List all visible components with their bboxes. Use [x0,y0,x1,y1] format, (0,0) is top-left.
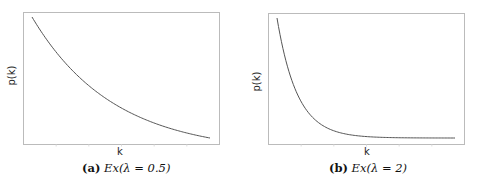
x-axis-label: k [117,146,123,157]
caption-tag: (a) [82,161,100,175]
plot-area-b [238,0,477,185]
data-line [32,17,210,138]
caption-expression: Ex(λ = 0.5) [104,161,170,175]
y-axis-label: p(k) [251,72,262,92]
axes-frame [269,14,465,145]
subplot-b: p(k) k (b) Ex(λ = 2) [238,0,476,185]
caption-expression: Ex(λ = 2) [352,161,407,175]
y-axis-label: p(k) [6,66,17,86]
plot-area-a [0,0,238,185]
subplot-a: p(k) k (a) Ex(λ = 0.5) [0,0,238,185]
x-axis-label: k [364,146,370,157]
caption-a: (a) Ex(λ = 0.5) [82,161,170,175]
caption-tag: (b) [329,161,348,175]
axes-frame [24,13,220,145]
caption-b: (b) Ex(λ = 2) [329,161,407,175]
data-line [277,18,455,138]
